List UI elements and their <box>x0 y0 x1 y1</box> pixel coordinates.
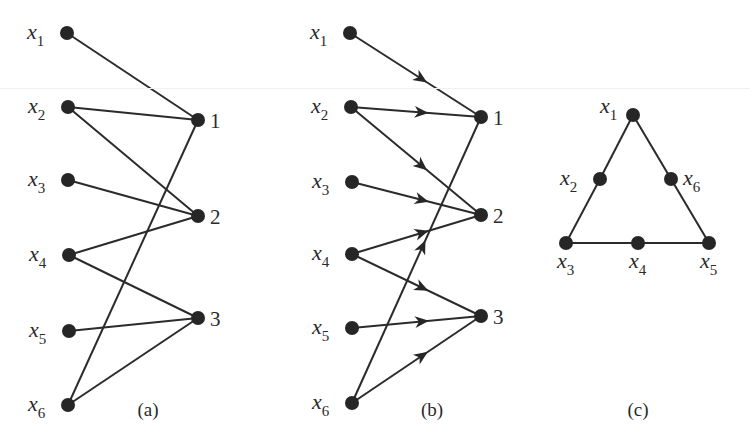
node-2 <box>191 209 205 223</box>
node-x6 <box>664 172 678 186</box>
node-label-3: 3 <box>210 307 221 331</box>
node-label-x1: x1 <box>26 19 44 49</box>
edge-x2-1 <box>68 107 198 120</box>
arrowhead-icon <box>414 192 431 207</box>
node-x6 <box>61 398 75 412</box>
edge-x4-3 <box>352 254 481 316</box>
panel-caption-b: (b) <box>421 399 443 421</box>
node-x1 <box>60 26 74 40</box>
edge-x6-x1 <box>633 115 671 179</box>
node-label-x6: x6 <box>27 391 46 421</box>
node-x2 <box>344 100 358 114</box>
edge-x1-x2 <box>600 115 633 179</box>
node-label-2: 2 <box>210 205 221 229</box>
node-label-x2: x2 <box>27 93 45 123</box>
node-label-x3: x3 <box>311 168 329 198</box>
node-label-1: 1 <box>210 109 221 133</box>
edge-x1-1 <box>350 33 481 117</box>
node-label-x5: x5 <box>699 248 717 278</box>
node-label-3: 3 <box>493 305 504 329</box>
node-label-x5: x5 <box>311 314 329 344</box>
node-x5 <box>345 321 359 335</box>
node-x2 <box>61 100 75 114</box>
node-x4 <box>345 247 359 261</box>
node-x2 <box>593 172 607 186</box>
node-label-x4: x4 <box>628 248 647 278</box>
node-3 <box>474 309 488 323</box>
arrowhead-icon <box>413 347 431 365</box>
node-label-x3: x3 <box>27 166 45 196</box>
node-label-x1: x1 <box>599 93 617 123</box>
figure-canvas: x1x2x3x4x5x6123(a) x1x2x3x4x5x6123(b) x1… <box>0 0 750 447</box>
node-3 <box>191 311 205 325</box>
bipartite-graph-figure: x1x2x3x4x5x6123(a) x1x2x3x4x5x6123(b) x1… <box>0 0 750 447</box>
edge-x4-2 <box>352 215 481 254</box>
node-x1 <box>343 26 357 40</box>
node-x4 <box>62 248 76 262</box>
node-label-x1: x1 <box>309 19 327 49</box>
edge-x4-3 <box>69 255 198 318</box>
node-x1 <box>626 108 640 122</box>
panel-caption-c: (c) <box>627 399 648 421</box>
node-label-x2: x2 <box>310 93 328 123</box>
node-label-x6: x6 <box>682 165 701 195</box>
edge-x1-1 <box>67 33 198 120</box>
node-label-2: 2 <box>493 204 504 228</box>
node-2 <box>474 208 488 222</box>
node-label-x5: x5 <box>28 317 46 347</box>
node-label-x2: x2 <box>559 165 577 195</box>
node-1 <box>474 110 488 124</box>
edge-x5-3 <box>69 318 198 331</box>
node-label-1: 1 <box>493 106 504 130</box>
arrowhead-icon <box>414 238 431 256</box>
node-x5 <box>62 324 76 338</box>
panel-caption-a: (a) <box>137 399 158 421</box>
panel-b: x1x2x3x4x5x6123(b) <box>309 19 504 421</box>
panel-a: x1x2x3x4x5x6123(a) <box>26 19 221 421</box>
node-label-x4: x4 <box>28 241 47 271</box>
arrowhead-icon <box>412 70 430 88</box>
node-1 <box>191 113 205 127</box>
node-x3 <box>61 173 75 187</box>
node-label-x6: x6 <box>311 389 330 419</box>
edge-x3-2 <box>68 180 198 216</box>
node-x6 <box>345 396 359 410</box>
panel-c: x1x2x6x3x4x5(c) <box>556 93 717 421</box>
arrowhead-icon <box>413 279 431 296</box>
node-label-x3: x3 <box>556 248 574 278</box>
edge-x4-2 <box>69 216 198 255</box>
node-x3 <box>345 175 359 189</box>
node-label-x4: x4 <box>311 240 330 270</box>
scan-artifact-line <box>0 88 750 89</box>
